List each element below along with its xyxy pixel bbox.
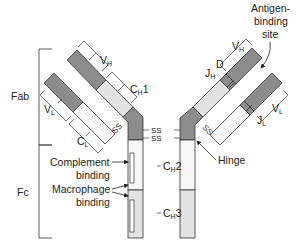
complement-label-1: Complement — [50, 156, 110, 168]
right-ch3-domain — [180, 190, 195, 238]
antibody-diagram: Fab Fc VH CH1 VL CL SS SS SS SS CH2 CH3 … — [0, 0, 296, 248]
right-cl-domain — [210, 105, 250, 145]
fab-label: Fab — [11, 90, 29, 102]
antigen-label-3: site — [262, 28, 279, 40]
hinge-label: Hinge — [218, 154, 246, 166]
label-ticks — [157, 166, 161, 213]
fab-bracket — [39, 49, 52, 145]
left-vh-label: VH — [100, 54, 112, 67]
left-vl-label: VL — [44, 103, 55, 116]
left-ch1-domain — [96, 80, 133, 117]
jh-label: JH — [205, 67, 215, 80]
right-ch2-domain — [180, 140, 195, 190]
antigen-arrow — [261, 42, 270, 68]
right-vh-label: VH — [232, 40, 244, 53]
macrophage-label-1: Macrophage — [52, 183, 111, 195]
complement-label-2: binding — [76, 169, 110, 181]
ch1-label: CH1 — [130, 83, 149, 96]
cl-label: CL — [77, 135, 89, 148]
hinge-ss-label-2: SS — [151, 134, 162, 143]
d-label: D — [216, 58, 224, 70]
macrophage-arrow-1 — [112, 185, 128, 189]
jl-label: JL — [257, 114, 266, 127]
antibody-svg: Fab Fc VH CH1 VL CL SS SS SS SS CH2 CH3 … — [0, 0, 296, 248]
macrophage-label-2: binding — [76, 196, 110, 208]
right-ch1-domain — [193, 80, 230, 117]
ch3-label: CH3 — [163, 207, 182, 220]
hinge-arrow — [197, 141, 216, 160]
macrophage-arrow-2 — [112, 192, 128, 196]
fc-label: Fc — [17, 186, 29, 198]
antigen-label-1: Antigen- — [251, 2, 291, 14]
antigen-label-2: binding — [254, 15, 288, 27]
ch2-label: CH2 — [163, 160, 182, 173]
right-vl-label: VL — [272, 102, 283, 115]
